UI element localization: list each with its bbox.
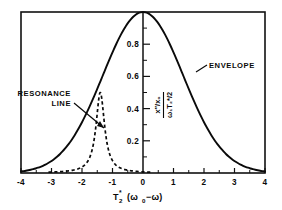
x-tick-label: -3 (48, 178, 56, 187)
envelope-annotation: ENVELOPE (196, 61, 255, 72)
y-tick-label: 0.8 (127, 40, 139, 49)
x-tick-label: 3 (232, 178, 237, 187)
y-axis-title-denominator: ω₁T₂*/2 (165, 92, 174, 118)
x-tick-label: -2 (78, 178, 86, 187)
y-axis-title-numerator: x″/x₀ (153, 96, 162, 113)
y-axis-ticks (143, 28, 150, 157)
envelope-leader-line (196, 65, 207, 72)
x-axis-title-superscript: * (119, 189, 122, 196)
x-axis-title: T 2 * (ω 0 −ω) (113, 189, 162, 204)
figure-container: -4-3-2-101234 0.20.40.60.8 ENVELOPE RESO… (0, 0, 282, 210)
x-tick-label: 1 (171, 178, 176, 187)
y-axis-tick-labels: 0.20.40.60.8 (127, 40, 139, 146)
x-tick-label: 4 (263, 178, 268, 187)
resonance-label-line2: LINE (52, 99, 72, 108)
resonance-label-line1: RESONANCE (18, 89, 71, 98)
x-tick-label: -1 (109, 178, 117, 187)
x-axis-tick-labels: -4-3-2-101234 (17, 178, 268, 187)
x-tick-label: -4 (17, 178, 25, 187)
y-tick-label: 0.4 (127, 105, 139, 114)
y-tick-label: 0.6 (127, 72, 139, 81)
resonance-envelope-plot: -4-3-2-101234 0.20.40.60.8 ENVELOPE RESO… (0, 0, 282, 210)
x-axis-title-argument: (ω (127, 192, 138, 202)
x-tick-label: 2 (202, 178, 207, 187)
resonance-arrowhead (97, 121, 104, 128)
resonance-annotation: RESONANCE LINE (18, 89, 104, 128)
envelope-label: ENVELOPE (209, 61, 255, 70)
x-axis-title-subscript: 2 (119, 197, 123, 204)
x-tick-label: 0 (141, 178, 146, 187)
y-tick-label: 0.2 (127, 137, 139, 146)
x-axis-title-argument-tail: −ω) (146, 192, 162, 202)
y-axis-title: x″/x₀ ω₁T₂*/2 (153, 92, 174, 118)
